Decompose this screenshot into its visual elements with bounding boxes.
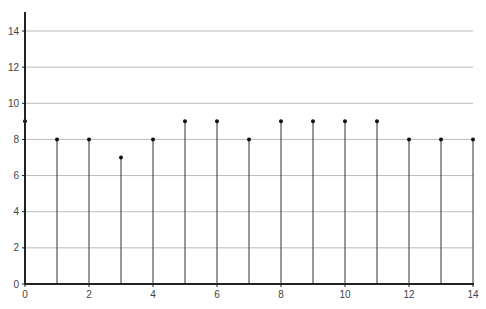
data-point xyxy=(439,137,443,141)
data-point xyxy=(55,137,59,141)
y-tick-label: 0 xyxy=(13,279,19,290)
x-tick-label: 10 xyxy=(339,289,351,300)
x-tick-label: 6 xyxy=(214,289,220,300)
y-tick-label: 4 xyxy=(13,206,19,217)
x-tick-label: 4 xyxy=(150,289,156,300)
y-tick-labels: 02468101214 xyxy=(8,26,25,290)
data-point xyxy=(375,119,379,123)
x-tick-label: 0 xyxy=(22,289,28,300)
y-tick-label: 14 xyxy=(8,26,20,37)
y-tick-label: 2 xyxy=(13,242,19,253)
y-tick-label: 10 xyxy=(8,98,20,109)
data-point xyxy=(311,119,315,123)
data-point xyxy=(119,156,123,160)
data-point xyxy=(343,119,347,123)
y-tick-label: 6 xyxy=(13,170,19,181)
data-point xyxy=(183,119,187,123)
x-tick-label: 8 xyxy=(278,289,284,300)
y-tick-label: 12 xyxy=(8,62,20,73)
data-point xyxy=(247,137,251,141)
stem-chart: 02468101214 02468101214 xyxy=(0,0,486,309)
y-tick-label: 8 xyxy=(13,134,19,145)
data-point xyxy=(471,137,475,141)
x-tick-label: 12 xyxy=(403,289,415,300)
data-point xyxy=(151,137,155,141)
data-point xyxy=(215,119,219,123)
x-tick-label: 2 xyxy=(86,289,92,300)
data-stems xyxy=(23,119,475,284)
x-tick-labels: 02468101214 xyxy=(22,284,479,300)
x-tick-label: 14 xyxy=(467,289,479,300)
data-point xyxy=(87,137,91,141)
data-point xyxy=(407,137,411,141)
data-point xyxy=(279,119,283,123)
